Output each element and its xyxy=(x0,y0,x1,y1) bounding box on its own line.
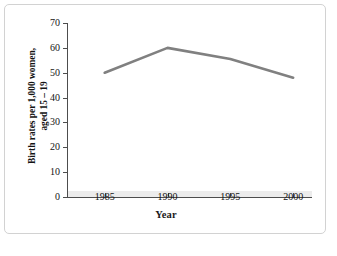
chart-panel: Birth rates per 1,000 women, aged 15 – 1… xyxy=(4,4,326,234)
series-line-birth-rates xyxy=(105,48,293,78)
figure-container: Birth rates per 1,000 women, aged 15 – 1… xyxy=(0,0,337,256)
x-axis-title: Year xyxy=(5,209,327,220)
series-line-chart xyxy=(5,5,327,235)
caption-fragment xyxy=(108,243,232,252)
plot-area: Birth rates per 1,000 women, aged 15 – 1… xyxy=(5,5,327,235)
